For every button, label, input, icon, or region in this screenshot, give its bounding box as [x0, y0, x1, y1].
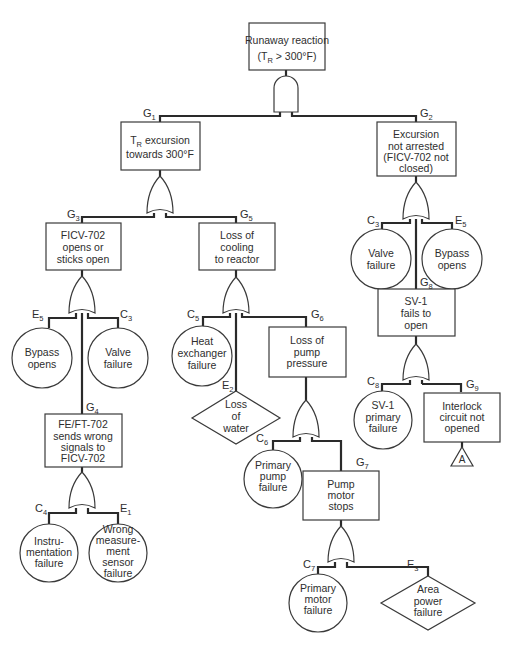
svg-text:Loss of: Loss of [290, 334, 324, 346]
svg-text:water: water [222, 422, 249, 434]
or-gate-g3 [69, 276, 95, 313]
svg-text:stops: stops [328, 500, 353, 512]
svg-text:Bypass: Bypass [435, 247, 469, 259]
svg-text:opened: opened [444, 422, 479, 434]
svg-text:sticks open: sticks open [57, 253, 110, 265]
event-g5-loss-of-cooling: Loss of cooling to reactor [199, 223, 275, 270]
event-e1-wrong-measurement-sensor-failure: Wrong measure- ment sensor failure [89, 523, 147, 582]
label-e5-right: E5 [455, 214, 467, 229]
svg-text:Excursion: Excursion [393, 128, 439, 140]
svg-text:Heat: Heat [191, 335, 213, 347]
event-c5-heat-exchanger-failure: Heat exchanger failure [172, 326, 232, 386]
svg-text:failure: failure [35, 557, 64, 569]
event-c6-primary-pump-failure: Primary pump failure [244, 450, 302, 508]
label-g1: G1 [143, 107, 156, 122]
or-gate-g7 [328, 526, 354, 562]
svg-text:Valve: Valve [368, 247, 394, 259]
svg-text:cooling: cooling [220, 241, 253, 253]
label-e2: E2 [222, 379, 234, 394]
label-g6: G6 [311, 308, 324, 323]
event-g3-ficv702-opens: FICV-702 opens or sticks open [46, 223, 121, 270]
fault-tree-diagram: Runaway reaction (TR > 300°F) TR excursi… [0, 0, 519, 646]
svg-text:of: of [232, 410, 241, 422]
svg-text:failure: failure [104, 358, 133, 370]
svg-text:failure: failure [414, 606, 443, 618]
label-c3-left: C3 [120, 308, 132, 323]
event-c7-primary-motor-failure: Primary motor failure [289, 574, 347, 632]
event-c3-valve-failure-left: Valve failure [88, 328, 148, 388]
or-gate-g1 [147, 176, 173, 213]
svg-text:towards 300°F: towards 300°F [126, 148, 194, 160]
or-gate-g2 [403, 182, 429, 219]
svg-text:failure: failure [367, 259, 396, 271]
svg-text:SV-1: SV-1 [405, 295, 428, 307]
svg-text:fails to: fails to [401, 307, 432, 319]
svg-text:FICV-702: FICV-702 [61, 452, 106, 464]
label-e5-left: E5 [32, 308, 44, 323]
label-c8: C8 [367, 375, 379, 390]
svg-text:failure: failure [304, 604, 333, 616]
svg-text:Bypass: Bypass [25, 346, 59, 358]
or-gate-g8 [403, 344, 429, 380]
svg-text:Area: Area [417, 583, 439, 595]
transfer-triangle-a: A [451, 447, 473, 466]
svg-text:Runaway reaction: Runaway reaction [245, 34, 329, 46]
event-g8-sv1-fails-to-open: SV-1 fails to open [378, 289, 455, 336]
svg-text:opens: opens [28, 358, 57, 370]
label-c5: C5 [187, 308, 199, 323]
label-c4: C4 [35, 502, 47, 517]
event-e5-bypass-opens-right: Bypass opens [422, 229, 482, 289]
event-c8-sv1-primary-failure: SV-1 primary failure [354, 391, 412, 449]
svg-text:open: open [404, 319, 428, 331]
svg-text:FICV-702: FICV-702 [61, 229, 106, 241]
event-c3-valve-failure-right: Valve failure [351, 229, 411, 289]
svg-text:exchanger: exchanger [177, 347, 227, 359]
event-e3-area-power-failure: Area power failure [381, 576, 475, 630]
svg-text:FE/FT-702: FE/FT-702 [58, 418, 108, 430]
label-c3-right: C3 [367, 214, 379, 229]
svg-text:failure: failure [369, 422, 398, 434]
label-c7: C7 [303, 558, 315, 573]
svg-text:closed): closed) [399, 162, 433, 174]
event-e5-bypass-opens-left: Bypass opens [12, 328, 72, 388]
top-event-runaway-reaction: Runaway reaction (TR > 300°F) [245, 23, 329, 70]
event-g2-excursion-not-arrested: Excursion not arrested (FICV-702 not clo… [377, 122, 456, 176]
svg-text:failure: failure [259, 481, 288, 493]
event-g6-loss-of-pump-pressure: Loss of pump pressure [269, 327, 346, 377]
label-e1: E1 [120, 502, 132, 517]
svg-text:opens or: opens or [63, 241, 104, 253]
label-c6: C6 [256, 432, 268, 447]
svg-text:opens: opens [438, 259, 467, 271]
label-g2: G2 [420, 107, 433, 122]
svg-text:to reactor: to reactor [215, 253, 260, 265]
event-g9-interlock-circuit-not-opened: Interlock circuit not opened [424, 393, 500, 442]
svg-text:pressure: pressure [287, 357, 328, 369]
label-g9: G9 [466, 378, 479, 393]
and-gate-top [274, 76, 298, 112]
or-gate-g6 [293, 400, 319, 437]
event-g4-fe-ft702-wrong-signals: FE/FT-702 sends wrong signals to FICV-70… [45, 414, 122, 467]
svg-text:failure: failure [188, 359, 217, 371]
label-g3: G3 [67, 208, 80, 223]
event-c4-instrumentation-failure: Instru- mentation failure [20, 524, 78, 582]
svg-text:SV-1: SV-1 [372, 399, 395, 411]
event-g1-tr-excursion: TR excursion towards 300°F [121, 122, 200, 170]
label-g7: G7 [356, 456, 369, 471]
svg-text:Valve: Valve [105, 346, 131, 358]
or-gate-g4 [69, 472, 95, 508]
svg-text:Loss: Loss [225, 398, 247, 410]
label-e3: E3 [407, 558, 419, 573]
svg-text:failure: failure [104, 567, 133, 579]
label-g5: G5 [240, 208, 253, 223]
svg-text:A: A [459, 454, 466, 465]
event-e2-loss-of-water: Loss of water [192, 391, 280, 444]
svg-text:Loss of: Loss of [220, 229, 254, 241]
or-gate-g5 [223, 277, 249, 313]
event-g7-pump-motor-stops: Pump motor stops [303, 471, 379, 520]
